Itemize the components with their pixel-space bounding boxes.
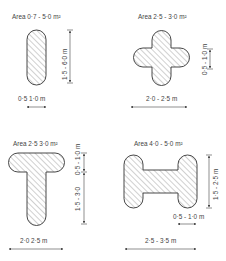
bar-dimension-label: 0·5 - 1·0 m <box>74 144 81 175</box>
area-label: Area 2·5 - 3·0 m² <box>138 13 187 20</box>
panel-h-shape: Area 4·0 - 5·0 m² 1·5 - 2·5 m 0·5 - 1·0 … <box>124 140 219 249</box>
height-dimension-label: 1·5 - 2·5 m <box>212 169 219 200</box>
tee-shape <box>9 153 65 226</box>
width-dimension-label: 0·5 1·0 m <box>18 95 45 102</box>
island-shapes-diagram: Area 0·7 - 5·0 m² 1·5 - 6·0 m 0·5 1·0 m … <box>0 0 226 261</box>
width-dimension-label: 2·0 2·5 m <box>20 237 47 244</box>
panel-tee: Area 2·5 3·0 m² 0·5 - 1·0 m 1·5 - 3·0 2·… <box>9 140 88 249</box>
area-label: Area 4·0 - 5·0 m² <box>134 140 183 147</box>
height-dimension-label: 1·5 - 6·0 m <box>61 49 68 80</box>
flange-dimension-label: 0·5 - 1·0 m <box>173 213 204 220</box>
cross-shape <box>134 31 190 86</box>
width-dimension-label: 2·5 - 3·5 m <box>145 237 176 244</box>
panel-cross: Area 2·5 - 3·0 m² 0·5 - 1·0 m 2·0 - 2·5 … <box>131 13 213 107</box>
width-dimension-label: 2·0 - 2·5 m <box>146 95 177 102</box>
stem-dimension-label: 1·5 - 3·0 <box>74 186 81 211</box>
area-label: Area 0·7 - 5·0 m² <box>12 13 61 20</box>
panel-stadium: Area 0·7 - 5·0 m² 1·5 - 6·0 m 0·5 1·0 m <box>12 13 73 107</box>
arm-dimension-label: 0·5 - 1·0 m <box>201 44 208 75</box>
stadium-shape <box>27 30 46 85</box>
h-shape <box>124 155 197 208</box>
area-label: Area 2·5 3·0 m² <box>13 140 58 147</box>
